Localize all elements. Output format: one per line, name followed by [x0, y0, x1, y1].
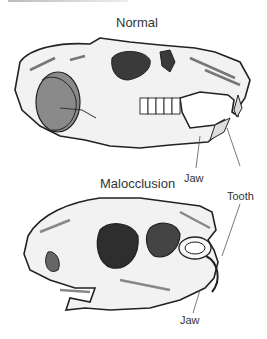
skull-illustration: [0, 0, 267, 339]
label-jaw-bottom: Jaw: [180, 314, 200, 326]
normal-skull: [15, 38, 250, 148]
title-normal: Normal: [116, 15, 158, 30]
title-malocclusion: Malocclusion: [100, 176, 175, 191]
malocclusion-skull: [24, 198, 218, 310]
label-jaw-top: Jaw: [184, 172, 204, 184]
label-tooth: Tooth: [227, 190, 254, 202]
